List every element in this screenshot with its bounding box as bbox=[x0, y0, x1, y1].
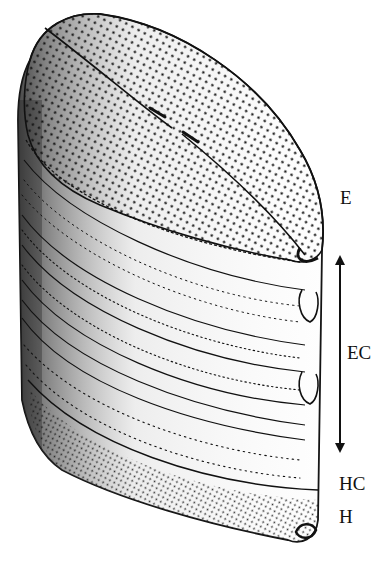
label-hypocingulum: HC bbox=[339, 474, 365, 493]
label-hypovalve: H bbox=[339, 507, 353, 526]
label-epicingulum: EC bbox=[347, 343, 371, 362]
double-arrow-icon bbox=[333, 255, 347, 453]
label-epivalve: E bbox=[340, 188, 352, 207]
diatom-frustule-illustration bbox=[0, 0, 386, 573]
